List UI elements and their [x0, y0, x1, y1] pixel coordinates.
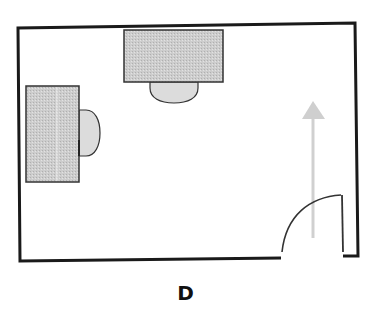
desk-top-group [124, 30, 223, 103]
desk-left [26, 86, 79, 182]
floor-plan [0, 0, 371, 313]
entry-arrow [302, 101, 325, 238]
door-leaf [342, 195, 343, 252]
chair-left [79, 110, 100, 156]
diagram-label: D [0, 281, 371, 305]
desk-top [124, 30, 223, 82]
desk-left-group [26, 86, 100, 182]
chair-top [150, 82, 198, 103]
arrow-head [302, 101, 325, 119]
